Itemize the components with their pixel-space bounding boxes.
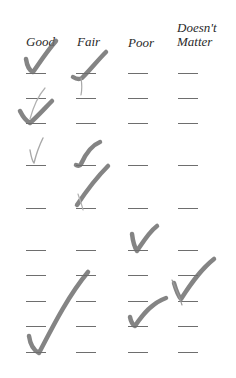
check-marks-layer bbox=[0, 0, 236, 378]
answer-blank[interactable] bbox=[76, 98, 96, 99]
answer-blank[interactable] bbox=[128, 98, 148, 99]
answer-blank[interactable] bbox=[128, 352, 148, 353]
answer-blank[interactable] bbox=[178, 326, 198, 327]
answer-blank[interactable] bbox=[26, 250, 46, 251]
check-mark-icon bbox=[132, 226, 157, 251]
answer-blank[interactable] bbox=[76, 73, 96, 74]
answer-blank[interactable] bbox=[76, 352, 96, 353]
column-header-fair: Fair bbox=[77, 35, 100, 48]
column-header-doesnt-matter-line1: Doesn't bbox=[177, 21, 217, 34]
answer-blank[interactable] bbox=[128, 123, 148, 124]
answer-blank[interactable] bbox=[178, 275, 198, 276]
answer-blank[interactable] bbox=[128, 208, 148, 209]
answer-blank[interactable] bbox=[26, 352, 46, 353]
answer-blank[interactable] bbox=[26, 73, 46, 74]
answer-blank[interactable] bbox=[26, 98, 46, 99]
answer-blank[interactable] bbox=[76, 250, 96, 251]
answer-blank[interactable] bbox=[26, 123, 46, 124]
check-mark-large-icon bbox=[29, 272, 88, 353]
answer-blank[interactable] bbox=[178, 123, 198, 124]
answer-blank[interactable] bbox=[128, 73, 148, 74]
answer-blank[interactable] bbox=[128, 326, 148, 327]
answer-blank[interactable] bbox=[26, 208, 46, 209]
check-mark-icon bbox=[76, 142, 100, 166]
answer-blank[interactable] bbox=[128, 250, 148, 251]
answer-blank[interactable] bbox=[26, 301, 46, 302]
check-mark-icon bbox=[172, 259, 214, 305]
answer-blank[interactable] bbox=[128, 301, 148, 302]
answer-blank[interactable] bbox=[76, 326, 96, 327]
check-mark-faint-icon bbox=[30, 138, 43, 163]
check-mark-icon bbox=[20, 88, 52, 123]
check-mark-icon bbox=[77, 166, 108, 210]
answer-blank[interactable] bbox=[178, 165, 198, 166]
answer-blank[interactable] bbox=[76, 208, 96, 209]
answer-blank[interactable] bbox=[76, 123, 96, 124]
answer-blank[interactable] bbox=[26, 326, 46, 327]
answer-blank[interactable] bbox=[26, 275, 46, 276]
answer-blank[interactable] bbox=[178, 208, 198, 209]
answer-blank[interactable] bbox=[76, 275, 96, 276]
column-header-good: Good bbox=[26, 35, 55, 48]
answer-blank[interactable] bbox=[128, 275, 148, 276]
answer-blank[interactable] bbox=[178, 73, 198, 74]
answer-blank[interactable] bbox=[178, 250, 198, 251]
answer-blank[interactable] bbox=[76, 301, 96, 302]
answer-blank[interactable] bbox=[178, 301, 198, 302]
answer-blank[interactable] bbox=[128, 165, 148, 166]
column-header-poor: Poor bbox=[128, 36, 154, 49]
answer-blank[interactable] bbox=[178, 98, 198, 99]
answer-blank[interactable] bbox=[178, 352, 198, 353]
check-mark-icon bbox=[130, 298, 166, 326]
column-header-doesnt-matter-line2: Matter bbox=[177, 35, 212, 48]
answer-blank[interactable] bbox=[76, 165, 96, 166]
answer-blank[interactable] bbox=[26, 165, 46, 166]
